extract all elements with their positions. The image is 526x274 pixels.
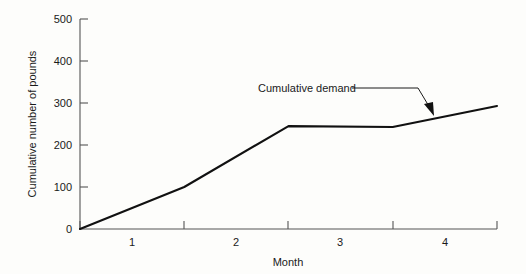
chart-figure: 500 400 300 200 100 0 1 2 3 4 Month Cumu…: [0, 0, 526, 274]
y-tick-label-0: 0: [32, 223, 72, 235]
y-tick-label-300: 300: [32, 97, 72, 109]
x-tick-label-4: 4: [425, 236, 465, 248]
x-axis-ticks: [80, 221, 497, 229]
chart-plot-area: [0, 0, 526, 274]
x-tick-label-1: 1: [112, 236, 152, 248]
cumulative-demand-annotation: Cumulative demand: [258, 82, 356, 94]
y-tick-label-500: 500: [32, 13, 72, 25]
cumulative-demand-line: [80, 106, 497, 229]
y-tick-label-100: 100: [32, 181, 72, 193]
x-tick-label-3: 3: [320, 236, 360, 248]
x-axis-title: Month: [228, 256, 348, 268]
x-tick-label-2: 2: [216, 236, 256, 248]
y-tick-label-200: 200: [32, 139, 72, 151]
annotation-arrowhead-icon: [424, 102, 434, 116]
y-axis-ticks: [80, 19, 88, 187]
y-axis-title: Cumulative number of pounds: [26, 24, 38, 224]
annotation-leader-line: [352, 88, 430, 108]
y-tick-label-400: 400: [32, 55, 72, 67]
